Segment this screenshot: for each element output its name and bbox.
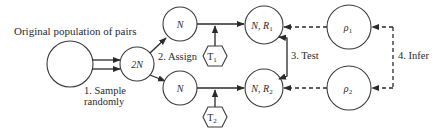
step3-label: 3. Test: [291, 50, 319, 61]
study-design-diagram: Original population of pairs 1. Sample r…: [0, 0, 439, 132]
group2-node-label: N: [176, 83, 185, 94]
population-node: [47, 41, 93, 87]
group1-node-label: N: [176, 19, 185, 30]
step2-label: 2. Assign: [158, 51, 198, 62]
population-title: Original population of pairs: [14, 25, 137, 37]
assign-arrow-lower: [150, 75, 165, 81]
test-arrow: [279, 37, 287, 79]
step4-label: 4. Infer: [398, 50, 429, 61]
step1-label-line2: randomly: [84, 96, 125, 107]
step1-label-line1: 1. Sample: [84, 85, 126, 96]
sample-node-label: 2N: [131, 59, 144, 70]
